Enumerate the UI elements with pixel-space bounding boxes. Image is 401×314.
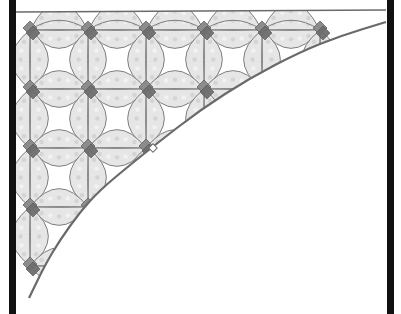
- right-border: [387, 0, 394, 314]
- quilt-pattern-figure: [0, 0, 401, 314]
- left-border: [9, 0, 16, 314]
